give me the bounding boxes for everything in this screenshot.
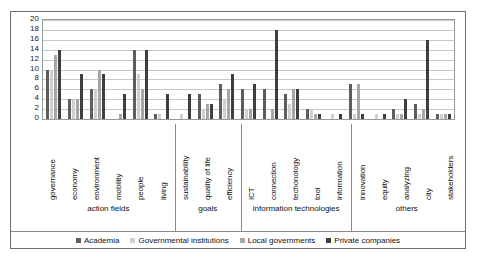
bar-group	[281, 20, 303, 119]
bar[interactable]	[98, 70, 101, 120]
x-category-living: living	[153, 130, 175, 200]
bar[interactable]	[392, 109, 395, 119]
legend-item-academia[interactable]: Academia	[76, 236, 120, 245]
legend-swatch-icon	[76, 238, 81, 243]
bar[interactable]	[422, 109, 425, 119]
bar[interactable]	[210, 104, 213, 119]
legend-item-local-governments[interactable]: Local governments	[240, 236, 316, 245]
x-category-city: city	[418, 130, 440, 200]
bar[interactable]	[375, 114, 378, 119]
bar[interactable]	[231, 74, 234, 119]
bar[interactable]	[227, 89, 230, 119]
bar[interactable]	[310, 109, 313, 119]
bar[interactable]	[202, 109, 205, 119]
legend-item-governmental-institutions[interactable]: Governmental institutions	[130, 236, 228, 245]
bar[interactable]	[353, 114, 356, 119]
x-category-ICT: ICT	[241, 130, 263, 200]
bar[interactable]	[145, 50, 148, 119]
bar[interactable]	[50, 70, 53, 120]
x-category-stakeholders: stakeholders	[440, 130, 462, 200]
bar[interactable]	[253, 84, 256, 119]
bar[interactable]	[271, 109, 274, 119]
bar[interactable]	[275, 30, 278, 119]
bar[interactable]	[137, 74, 140, 119]
bar[interactable]	[245, 109, 248, 119]
bar[interactable]	[141, 89, 144, 119]
bar[interactable]	[80, 74, 83, 119]
bar[interactable]	[158, 114, 161, 119]
bar-group	[194, 20, 216, 119]
bar[interactable]	[339, 114, 342, 119]
bar[interactable]	[133, 50, 136, 119]
bar[interactable]	[223, 99, 226, 119]
bar-group	[432, 20, 454, 119]
bar[interactable]	[404, 99, 407, 119]
bar[interactable]	[383, 114, 386, 119]
bar[interactable]	[154, 114, 157, 119]
bar[interactable]	[263, 89, 266, 119]
bar[interactable]	[426, 40, 429, 119]
bar[interactable]	[46, 70, 49, 120]
bar[interactable]	[396, 114, 399, 119]
x-category-techonology: techonology	[285, 130, 307, 200]
x-category-label: information	[336, 130, 344, 200]
x-category-information: information	[329, 130, 351, 200]
bar[interactable]	[58, 50, 61, 119]
bar[interactable]	[119, 114, 122, 119]
bar[interactable]	[444, 114, 447, 119]
bar[interactable]	[314, 114, 317, 119]
bar[interactable]	[318, 114, 321, 119]
y-tick-2: 2	[35, 104, 39, 112]
bar[interactable]	[188, 94, 191, 119]
legend-swatch-icon	[130, 238, 135, 243]
bar[interactable]	[418, 114, 421, 119]
x-category-innovation: innovation	[352, 130, 374, 200]
bar[interactable]	[288, 104, 291, 119]
bar-group	[130, 20, 152, 119]
x-category-sustainability: sustainability	[175, 130, 197, 200]
plot-area	[42, 19, 455, 120]
y-tick-18: 18	[30, 25, 39, 33]
bar[interactable]	[76, 99, 79, 119]
bar[interactable]	[292, 89, 295, 119]
x-category-label: efficiency	[226, 130, 234, 200]
legend-item-private-companies[interactable]: Private companies	[326, 236, 400, 245]
bar[interactable]	[206, 104, 209, 119]
plot-area-wrapper: 20181614121086420	[23, 19, 455, 129]
legend-label: Academia	[84, 236, 120, 245]
bar[interactable]	[102, 74, 105, 119]
bar[interactable]	[296, 89, 299, 119]
bar[interactable]	[436, 114, 439, 119]
bar[interactable]	[166, 94, 169, 119]
bar[interactable]	[94, 89, 97, 119]
bar[interactable]	[284, 94, 287, 119]
bar[interactable]	[331, 114, 334, 119]
bar[interactable]	[357, 84, 360, 119]
x-category-label: living	[160, 130, 168, 200]
x-category-label: governance	[49, 130, 57, 200]
bar[interactable]	[198, 94, 201, 119]
bar[interactable]	[361, 114, 364, 119]
bar[interactable]	[90, 89, 93, 119]
y-tick-6: 6	[35, 84, 39, 92]
bar[interactable]	[400, 114, 403, 119]
bar[interactable]	[414, 104, 417, 119]
bar[interactable]	[180, 114, 183, 119]
bar[interactable]	[448, 114, 451, 119]
bar[interactable]	[68, 99, 71, 119]
bar[interactable]	[72, 99, 75, 119]
x-category-label: people	[137, 130, 145, 200]
bar[interactable]	[54, 55, 57, 119]
bar[interactable]	[241, 89, 244, 119]
bar[interactable]	[306, 109, 309, 119]
x-category-label: analyzing	[403, 130, 411, 200]
bar[interactable]	[249, 109, 252, 119]
bar[interactable]	[123, 94, 126, 119]
bar[interactable]	[440, 114, 443, 119]
x-category-label: techonology	[292, 130, 300, 200]
bar[interactable]	[349, 84, 352, 119]
x-axis-group-bands: action fieldsgoalsinformation technologi…	[42, 202, 462, 228]
bar[interactable]	[219, 84, 222, 119]
bar-group	[151, 20, 173, 119]
y-tick-4: 4	[35, 94, 39, 102]
